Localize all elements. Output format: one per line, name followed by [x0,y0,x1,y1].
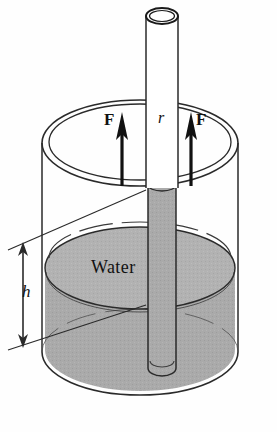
force-arrow-left [116,112,128,186]
capillary-tube-upper [146,8,178,188]
radius-label: r [158,110,164,126]
water-label: Water [91,258,136,276]
force-label-left: F [104,111,114,128]
water-surface-ellipse [45,227,235,309]
tube-water-column [148,185,176,373]
beaker-rim-outer [42,100,238,186]
height-label: h [22,283,31,300]
tube-upper-fill [146,16,178,188]
diagram-canvas [0,0,277,432]
force-label-right: F [196,111,206,128]
beaker-rim [42,100,238,186]
tube-top-opening-inner [150,11,175,22]
capillary-rise-figure: F F r h Water [0,0,277,432]
capillary-tube-submerged [148,179,176,376]
